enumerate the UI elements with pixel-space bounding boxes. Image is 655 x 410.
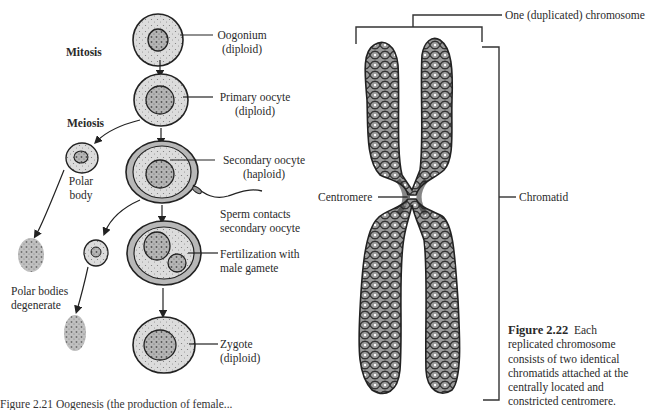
chromatid-label: Chromatid <box>519 190 568 204</box>
figure-2-22-caption: Figure 2.22 Each replicated chromosome c… <box>508 323 655 409</box>
figure-2-21-caption-cutoff: Figure 2.21 Oogenesis (the production of… <box>0 398 233 410</box>
oogonium-cell <box>133 14 183 66</box>
polar-body-2 <box>84 240 108 266</box>
figure-number: Figure 2.22 <box>508 323 568 337</box>
fertilization-label: Fertilization with male gamete <box>220 247 300 275</box>
secondary-oocyte-label: Secondary oocyte (haploid) <box>216 153 312 181</box>
zygote-label: Zygote (diploid) <box>220 337 260 365</box>
oogonium-label: Oogonium (diploid) <box>214 28 270 56</box>
primary-oocyte-cell <box>134 74 188 126</box>
primary-oocyte-label: Primary oocyte (diploid) <box>214 90 296 118</box>
polar-bodies-degenerate-label: Polar bodies degenerate <box>11 284 68 312</box>
chromosome-label: One (duplicated) chromosome <box>505 8 645 22</box>
degenerating-polar-body-2 <box>64 315 86 351</box>
chromosome <box>359 38 460 393</box>
polar-body-label: Polar body <box>63 174 99 202</box>
sperm-contacts-label: Sperm contacts secondary oocyte <box>220 207 300 235</box>
centromere-label: Centromere <box>318 190 372 204</box>
meiosis-label: Meiosis <box>67 116 104 130</box>
sperm-tail <box>193 185 262 197</box>
polar-body-1 <box>66 143 98 173</box>
mitosis-label: Mitosis <box>66 45 102 59</box>
degenerating-polar-body-1 <box>18 238 44 272</box>
zygote-cell <box>133 317 195 373</box>
